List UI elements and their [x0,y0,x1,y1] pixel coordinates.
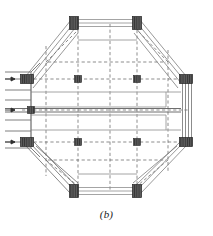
diagonal-line [33,33,78,88]
figure-panel: (b) [0,0,213,236]
diagonal-line [31,28,75,83]
diagonal-line [26,146,71,194]
bracket-lower [31,115,166,130]
node-grid-bottom-right [134,139,141,146]
diagonal-line [138,24,184,80]
node-grid-top-right [134,76,141,83]
joint-left-bottom [21,138,34,147]
bracket-upper [31,92,166,107]
figure-caption: (b) [0,208,213,220]
diagonal-line [137,143,183,190]
interior-node-group [28,76,141,146]
load-arrow-top [5,77,15,81]
joint-left-top [21,75,34,84]
diagonal-line [30,143,74,190]
diagonal-line [34,142,77,187]
diagonal-line [26,20,71,76]
diagonal-line [28,24,73,80]
octagonal-frame-drawing [0,0,213,236]
diagonal-line [140,146,186,194]
diagonal-line [133,146,177,183]
top-edge-chords [74,20,137,41]
load-arrows-group [5,77,15,144]
joint-bottom-left [70,185,79,198]
joint-top-left [70,17,79,30]
right-edge-chords [183,79,192,142]
bottom-edge-chords [74,174,137,195]
joint-right-top [180,75,193,84]
dashed-diagonal [46,30,78,62]
joint-right-bottom [180,138,193,147]
node-grid-bottom-left [75,139,82,146]
joint-top-right [133,17,142,30]
dashed-diagonal [137,160,168,186]
diagonal-line [140,20,186,76]
node-mid-left [28,107,35,114]
diagonal-line [134,142,180,187]
node-grid-top-left [75,76,82,83]
joint-bottom-right [133,185,142,198]
diagonal-line [36,146,78,183]
interior-bracket-members [31,92,181,130]
load-arrow-bottom [5,140,15,144]
diagonal-line [136,28,181,83]
